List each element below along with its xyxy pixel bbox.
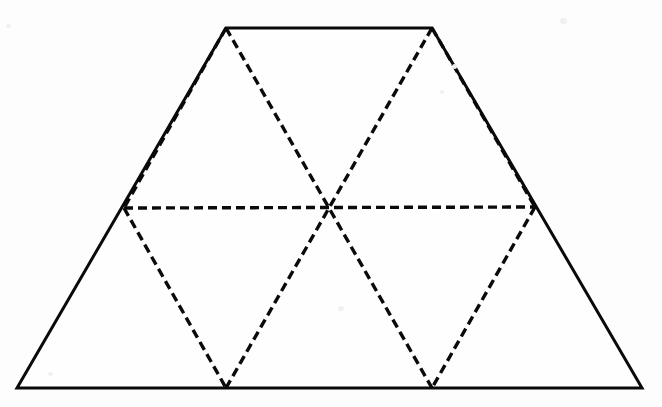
trapezoid-interior-fill xyxy=(17,28,642,388)
geometry-diagram: Trapezoid with inscribed hexagon divided… xyxy=(0,0,662,407)
figure-fill-layer xyxy=(17,28,642,388)
figure-canvas: Trapezoid with inscribed hexagon divided… xyxy=(0,0,662,407)
